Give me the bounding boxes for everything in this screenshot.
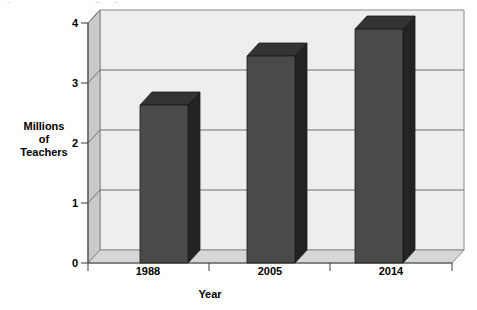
x-tick-label-2005: 2005	[230, 266, 310, 277]
y-axis-title-line-3: Teachers	[6, 146, 82, 159]
scan-artifact-3	[115, 2, 118, 3]
scan-artifact-1	[7, 2, 10, 3]
bar-chart: 4 3 2 1 0 Millions of Teachers 1988 2005…	[0, 0, 477, 310]
bar-1988	[140, 92, 200, 263]
bar-side-face	[295, 43, 307, 263]
y-axis-title-line-1: Millions	[6, 120, 82, 133]
y-axis-title: Millions of Teachers	[6, 120, 82, 159]
scan-artifact-2	[95, 2, 101, 3]
x-tick-label-1988: 1988	[108, 266, 188, 277]
bar-side-face	[188, 92, 200, 263]
x-axis-title: Year	[0, 288, 420, 300]
y-axis-title-line-2: of	[6, 133, 82, 146]
y-tick-label-4: 4	[56, 18, 78, 29]
x-tick-label-2014: 2014	[351, 266, 431, 277]
bar-front-face	[140, 105, 188, 263]
y-tick-label-1: 1	[56, 198, 78, 209]
bar-2005	[247, 43, 307, 263]
y-tick-label-3: 3	[56, 78, 78, 89]
bar-front-face	[247, 56, 295, 263]
bar-front-face	[355, 29, 403, 263]
bar-2014	[355, 16, 415, 263]
y-tick-label-0: 0	[56, 258, 78, 269]
bar-side-face	[403, 16, 415, 263]
